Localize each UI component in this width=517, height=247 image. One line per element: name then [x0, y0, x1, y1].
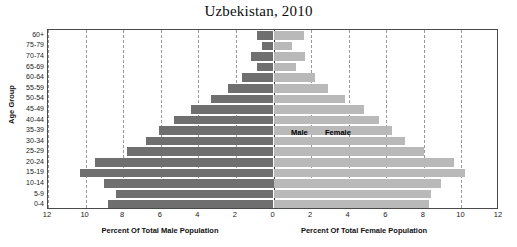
- x-axis-tick-label: 12: [32, 210, 62, 219]
- pyramid-row: [48, 95, 497, 104]
- bar-female: [274, 52, 306, 61]
- bar-female: [274, 95, 345, 104]
- bar-male: [257, 63, 274, 72]
- bar-male: [146, 137, 274, 146]
- bar-male: [211, 95, 273, 104]
- population-pyramid-chart: Uzbekistan, 2010 Age Group 60+75-7970-74…: [0, 0, 517, 247]
- bar-female: [274, 200, 430, 209]
- y-axis-label: 65-69: [4, 62, 44, 71]
- bar-female: [274, 190, 432, 199]
- x-axis-ticks: 12108642024681012: [47, 210, 498, 222]
- bar-female: [274, 73, 315, 82]
- bar-female: [274, 158, 454, 167]
- x-axis-tick-label: 12: [483, 210, 513, 219]
- x-axis-tick-label: 6: [145, 210, 175, 219]
- y-axis-label: 30-34: [4, 136, 44, 145]
- x-axis-tick-label: 4: [333, 210, 363, 219]
- pyramid-row: [48, 147, 497, 156]
- x-axis-tick-label: 0: [258, 210, 288, 219]
- pyramid-row: [48, 52, 497, 61]
- bar-female: [274, 169, 466, 178]
- pyramid-row: [48, 137, 497, 146]
- pyramid-row: [48, 63, 497, 72]
- y-axis-labels: 60+75-7970-7465-6960-6455-5950-5445-4940…: [0, 29, 44, 209]
- pyramid-row: [48, 31, 497, 40]
- bar-male: [80, 169, 274, 178]
- bar-female: [274, 147, 424, 156]
- y-axis-label: 35-39: [4, 125, 44, 134]
- y-axis-label: 70-74: [4, 51, 44, 60]
- y-axis-label: 60+: [4, 30, 44, 39]
- pyramid-row: [48, 169, 497, 178]
- bar-female: [274, 31, 304, 40]
- bar-male: [191, 105, 274, 114]
- y-axis-label: 25-29: [4, 146, 44, 155]
- x-axis-tick-label: 2: [295, 210, 325, 219]
- legend-label-female: Female: [325, 128, 351, 137]
- pyramid-row: [48, 158, 497, 167]
- pyramid-row: [48, 179, 497, 188]
- y-axis-label: 0-4: [4, 199, 44, 208]
- bar-male: [127, 147, 274, 156]
- x-axis-tick-label: 8: [107, 210, 137, 219]
- legend-label-male: Male: [291, 128, 308, 137]
- pyramid-row: [48, 42, 497, 51]
- plot-area: Male Female: [47, 29, 498, 209]
- bar-male: [116, 190, 274, 199]
- y-axis-label: 75-79: [4, 40, 44, 49]
- bar-male: [262, 42, 273, 51]
- y-axis-label: 10-14: [4, 178, 44, 187]
- y-axis-label: 55-59: [4, 83, 44, 92]
- x-axis-tick-label: 10: [70, 210, 100, 219]
- bar-female: [274, 42, 293, 51]
- x-axis-tick-label: 2: [220, 210, 250, 219]
- x-axis-tick-label: 8: [408, 210, 438, 219]
- y-axis-label: 5-9: [4, 189, 44, 198]
- x-axis-tick-label: 10: [445, 210, 475, 219]
- bar-male: [251, 52, 274, 61]
- pyramid-row: [48, 84, 497, 93]
- bar-female: [274, 105, 364, 114]
- bar-female: [274, 179, 441, 188]
- pyramid-row: [48, 126, 497, 135]
- bar-female: [274, 137, 406, 146]
- pyramid-row: [48, 73, 497, 82]
- bar-male: [174, 116, 274, 125]
- pyramid-row: [48, 116, 497, 125]
- bar-male: [257, 31, 274, 40]
- x-axis-title-female: Percent Of Total Female Population: [234, 226, 494, 235]
- pyramid-row: [48, 190, 497, 199]
- y-axis-label: 60-64: [4, 72, 44, 81]
- y-axis-label: 50-54: [4, 93, 44, 102]
- pyramid-row: [48, 200, 497, 209]
- bar-male: [104, 179, 273, 188]
- y-axis-label: 15-19: [4, 167, 44, 176]
- bar-male: [95, 158, 274, 167]
- bar-male: [242, 73, 274, 82]
- y-axis-label: 40-44: [4, 115, 44, 124]
- x-axis-tick-label: 6: [370, 210, 400, 219]
- x-axis-tick-label: 4: [182, 210, 212, 219]
- bar-male: [108, 200, 273, 209]
- bar-male: [159, 126, 274, 135]
- chart-title: Uzbekistan, 2010: [0, 3, 517, 20]
- bar-female: [274, 116, 379, 125]
- bar-male: [228, 84, 273, 93]
- y-axis-label: 20-24: [4, 157, 44, 166]
- bar-female: [274, 84, 328, 93]
- y-axis-label: 45-49: [4, 104, 44, 113]
- bar-female: [274, 63, 297, 72]
- pyramid-row: [48, 105, 497, 114]
